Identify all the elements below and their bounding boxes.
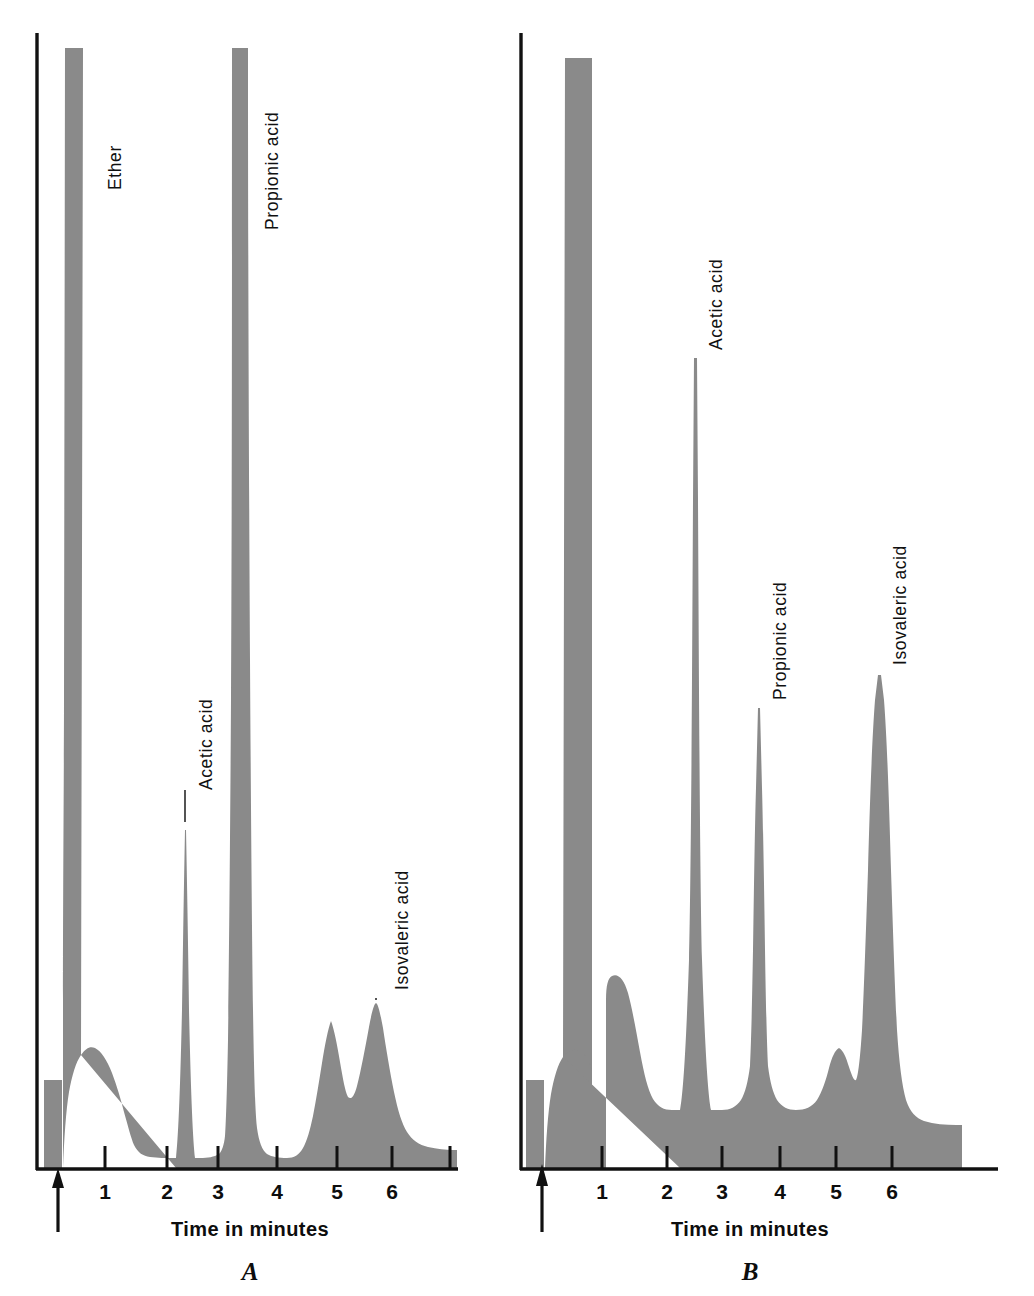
panel-a-letter: A bbox=[190, 1258, 310, 1286]
panel-a-plot bbox=[0, 0, 500, 1296]
panel-a-axis-title: Time in minutes bbox=[140, 1218, 360, 1241]
panel-b-injection-arrow-icon bbox=[536, 1164, 548, 1232]
panel-a: Ether Acetic acid Propionic acid Isovale… bbox=[0, 0, 500, 1296]
panel-a-label-propionic-acid: Propionic acid bbox=[262, 112, 283, 230]
panel-a-tick-label-6: 6 bbox=[380, 1180, 404, 1204]
panel-a-label-acetic-acid: Acetic acid bbox=[196, 699, 217, 790]
panel-b-tick-label-4: 4 bbox=[768, 1180, 792, 1204]
panel-b: Acetic acid Propionic acid Isovaleric ac… bbox=[500, 0, 1034, 1296]
panel-a-tick-label-2: 2 bbox=[155, 1180, 179, 1204]
chromatogram-figure: Ether Acetic acid Propionic acid Isovale… bbox=[0, 0, 1034, 1296]
panel-a-tick-label-4: 4 bbox=[265, 1180, 289, 1204]
panel-a-label-isovaleric-acid: Isovaleric acid bbox=[392, 870, 413, 990]
panel-b-letter: B bbox=[690, 1258, 810, 1286]
panel-b-trace-ether bbox=[545, 58, 592, 1168]
panel-a-trace bbox=[44, 1080, 62, 1168]
panel-b-tick-label-5: 5 bbox=[824, 1180, 848, 1204]
panel-b-axis-title: Time in minutes bbox=[640, 1218, 860, 1241]
panel-a-tick-label-1: 1 bbox=[93, 1180, 117, 1204]
panel-b-trace-preblock bbox=[526, 1080, 544, 1168]
panel-b-tick-label-3: 3 bbox=[710, 1180, 734, 1204]
panel-b-tick-label-6: 6 bbox=[880, 1180, 904, 1204]
panel-b-label-isovaleric-acid: Isovaleric acid bbox=[890, 545, 911, 665]
panel-a-trace-main bbox=[63, 48, 83, 1168]
panel-b-plot bbox=[500, 0, 1034, 1296]
panel-a-tick-label-3: 3 bbox=[206, 1180, 230, 1204]
panel-b-tick-label-2: 2 bbox=[655, 1180, 679, 1204]
panel-a-label-ether: Ether bbox=[105, 145, 126, 190]
panel-b-label-propionic-acid: Propionic acid bbox=[770, 582, 791, 700]
panel-b-trace-body bbox=[563, 358, 962, 1168]
panel-b-tick-label-1: 1 bbox=[590, 1180, 614, 1204]
panel-b-label-acetic-acid: Acetic acid bbox=[706, 259, 727, 350]
panel-a-tick-label-5: 5 bbox=[325, 1180, 349, 1204]
panel-a-injection-arrow-icon bbox=[52, 1168, 64, 1232]
